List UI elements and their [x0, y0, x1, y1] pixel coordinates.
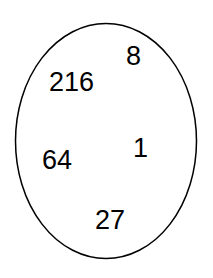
set-diagram-canvas: 8 216 1 64 27 [0, 0, 213, 278]
set-member-27: 27 [95, 207, 125, 234]
set-member-216: 216 [49, 69, 94, 96]
set-boundary-ellipse [0, 0, 213, 278]
set-member-1: 1 [133, 135, 148, 162]
set-member-8: 8 [126, 43, 141, 70]
set-member-64: 64 [42, 147, 72, 174]
